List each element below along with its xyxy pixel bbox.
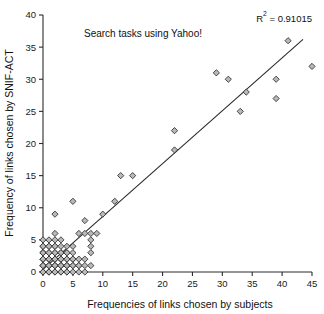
data-point-marker	[88, 250, 94, 256]
regression-line	[43, 39, 303, 269]
data-point-marker	[40, 237, 46, 243]
data-point-marker	[273, 76, 279, 82]
data-point-marker	[46, 250, 52, 256]
scatter-chart: 0510152025303540450510152025303540 Searc…	[0, 0, 324, 314]
data-point-marker	[243, 89, 249, 95]
data-point-marker	[40, 256, 46, 262]
data-point-marker	[58, 237, 64, 243]
data-point-marker	[64, 243, 70, 249]
data-point-marker	[213, 70, 219, 76]
y-tick-label: 30	[25, 74, 36, 85]
data-point-marker	[285, 38, 291, 44]
y-tick-label: 15	[25, 170, 36, 181]
y-tick-label: 10	[25, 202, 36, 213]
data-point-marker	[58, 243, 64, 249]
data-point-marker	[76, 256, 82, 262]
trend-line	[43, 39, 303, 269]
data-point-marker	[309, 63, 315, 69]
x-axis-title: Frequencies of links chosen by subjects	[87, 298, 273, 310]
data-point-marker	[40, 243, 46, 249]
data-point-marker	[118, 173, 124, 179]
data-point-marker	[58, 269, 64, 275]
r-squared-annotation: R2 = 0.91015	[256, 9, 312, 24]
x-tick-label: 15	[127, 278, 138, 289]
x-tick-label: 5	[70, 278, 75, 289]
data-point-marker	[52, 250, 58, 256]
data-point-marker	[88, 262, 94, 268]
y-axis-title: Frequency of links chosen by SNIF-ACT	[3, 49, 15, 237]
data-point-marker	[58, 262, 64, 268]
data-point-marker	[46, 262, 52, 268]
data-point-marker	[94, 230, 100, 236]
data-point-marker	[70, 269, 76, 275]
data-point-marker	[88, 243, 94, 249]
y-tick-label: 40	[25, 9, 36, 20]
data-point-marker	[82, 218, 88, 224]
data-point-marker	[52, 243, 58, 249]
x-tick-label: 0	[40, 278, 45, 289]
data-point-marker	[58, 256, 64, 262]
data-point-marker	[225, 76, 231, 82]
y-tick-label: 20	[25, 138, 36, 149]
data-point-marker	[52, 230, 58, 236]
x-tick-label: 25	[187, 278, 198, 289]
y-tick-label: 25	[25, 106, 36, 117]
x-tick-label: 30	[217, 278, 228, 289]
y-tick-label: 0	[31, 266, 36, 277]
data-point-marker	[171, 128, 177, 134]
data-points	[40, 38, 315, 276]
y-tick-label: 5	[31, 234, 36, 245]
data-point-marker	[64, 262, 70, 268]
data-point-marker	[130, 173, 136, 179]
data-point-marker	[46, 269, 52, 275]
x-tick-label: 10	[97, 278, 108, 289]
chart-canvas: 0510152025303540450510152025303540 Searc…	[0, 0, 324, 314]
data-point-marker	[70, 256, 76, 262]
data-point-marker	[171, 147, 177, 153]
x-tick-label: 40	[277, 278, 288, 289]
data-point-marker	[237, 108, 243, 114]
data-point-marker	[70, 198, 76, 204]
data-point-marker	[40, 250, 46, 256]
x-tick-label: 35	[247, 278, 258, 289]
data-point-marker	[52, 211, 58, 217]
data-point-marker	[70, 262, 76, 268]
data-point-marker	[46, 256, 52, 262]
data-point-marker	[64, 269, 70, 275]
y-tick-label: 35	[25, 42, 36, 53]
data-point-marker	[88, 237, 94, 243]
data-point-marker	[82, 256, 88, 262]
data-point-marker	[40, 269, 46, 275]
x-tick-label: 20	[157, 278, 168, 289]
data-point-marker	[70, 250, 76, 256]
data-point-marker	[52, 269, 58, 275]
data-point-marker	[82, 262, 88, 268]
data-point-marker	[52, 237, 58, 243]
data-point-marker	[46, 237, 52, 243]
x-tick-label: 45	[307, 278, 318, 289]
data-point-marker	[46, 243, 52, 249]
data-point-marker	[273, 95, 279, 101]
plot-title: Search tasks using Yahoo!	[84, 28, 202, 39]
data-point-marker	[76, 262, 82, 268]
data-point-marker	[70, 243, 76, 249]
data-point-marker	[100, 211, 106, 217]
data-point-marker	[88, 230, 94, 236]
data-point-marker	[52, 262, 58, 268]
data-point-marker	[82, 269, 88, 275]
data-point-marker	[82, 230, 88, 236]
data-point-marker	[76, 269, 82, 275]
data-point-marker	[64, 256, 70, 262]
